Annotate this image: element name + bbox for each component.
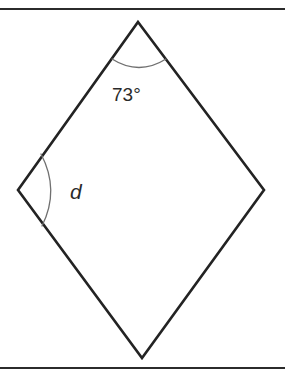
- left-angle-arc-icon: [41, 154, 51, 226]
- geometry-figure-svg: 73° d: [0, 0, 285, 377]
- geometry-figure-container: 73° d: [0, 0, 285, 377]
- left-angle-label: d: [70, 180, 83, 203]
- top-angle-label: 73°: [112, 84, 141, 105]
- top-angle-arc-icon: [112, 59, 166, 68]
- kite-quadrilateral-outline: [18, 22, 264, 358]
